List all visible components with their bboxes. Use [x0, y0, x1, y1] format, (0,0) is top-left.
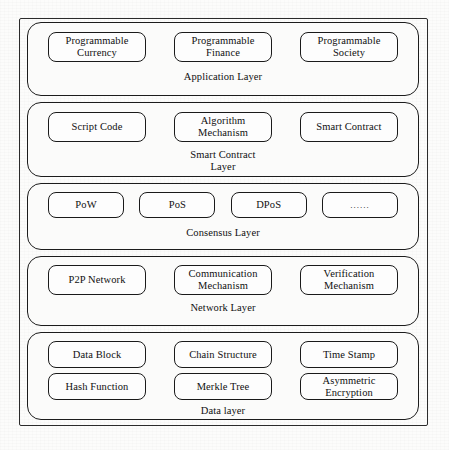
node-label: Programmable Society: [301, 35, 397, 59]
node-programmable-finance[interactable]: Programmable Finance: [174, 32, 272, 62]
layer-network[interactable]: P2P Network Communication Mechanism Veri…: [27, 256, 419, 326]
node-script-code[interactable]: Script Code: [48, 112, 146, 142]
node-label: Algorithm Mechanism: [175, 115, 271, 139]
layer-application-title: Application Layer: [28, 71, 418, 83]
node-label: Script Code: [69, 121, 126, 133]
node-merkle-tree[interactable]: Merkle Tree: [174, 373, 272, 400]
layer-smart-contract-item-row: Script Code Algorithm Mechanism Smart Co…: [28, 112, 418, 142]
node-smart-contract[interactable]: Smart Contract: [300, 112, 398, 142]
node-programmable-currency[interactable]: Programmable Currency: [48, 32, 146, 62]
node-label: Time Stamp: [320, 349, 378, 361]
node-communication-mechanism[interactable]: Communication Mechanism: [174, 265, 272, 295]
node-label: PoS: [166, 199, 189, 211]
layer-smart-contract-title-line2: Layer: [211, 161, 236, 172]
layer-smart-contract-title: Smart Contract Layer: [28, 149, 418, 173]
node-label: Verification Mechanism: [301, 268, 397, 292]
layer-network-title: Network Layer: [28, 302, 418, 314]
node-p2p-network[interactable]: P2P Network: [48, 265, 146, 295]
layer-data-item-row-1: Data Block Chain Structure Time Stamp: [28, 341, 418, 368]
node-label: Chain Structure: [186, 349, 260, 361]
node-label: Hash Function: [63, 381, 132, 393]
node-label: Programmable Finance: [175, 35, 271, 59]
layer-consensus-title: Consensus Layer: [28, 227, 418, 239]
node-data-block[interactable]: Data Block: [48, 341, 146, 368]
node-label: Asymmetric Encryption: [301, 375, 397, 399]
node-dpos[interactable]: DPoS: [231, 192, 307, 218]
node-time-stamp[interactable]: Time Stamp: [300, 341, 398, 368]
layer-data-title: Data layer: [28, 405, 418, 417]
layer-data[interactable]: Data Block Chain Structure Time Stamp Ha…: [27, 332, 419, 420]
node-label: P2P Network: [65, 274, 128, 286]
node-label: Data Block: [70, 349, 125, 361]
node-hash-function[interactable]: Hash Function: [48, 373, 146, 400]
layer-application-item-row: Programmable Currency Programmable Finan…: [28, 32, 418, 62]
node-asymmetric-encryption[interactable]: Asymmetric Encryption: [300, 373, 398, 400]
layer-smart-contract-title-line1: Smart Contract: [190, 149, 255, 160]
node-chain-structure[interactable]: Chain Structure: [174, 341, 272, 368]
node-consensus-ellipsis[interactable]: ......: [322, 192, 398, 218]
node-label: DPoS: [253, 199, 284, 211]
node-algorithm-mechanism[interactable]: Algorithm Mechanism: [174, 112, 272, 142]
layer-data-item-row-2: Hash Function Merkle Tree Asymmetric Enc…: [28, 373, 418, 400]
layer-application[interactable]: Programmable Currency Programmable Finan…: [27, 22, 419, 96]
node-verification-mechanism[interactable]: Verification Mechanism: [300, 265, 398, 295]
ellipsis-icon: ......: [347, 199, 373, 211]
node-pos[interactable]: PoS: [139, 192, 215, 218]
blockchain-architecture-diagram: Programmable Currency Programmable Finan…: [0, 0, 449, 450]
layer-consensus-item-row: PoW PoS DPoS ......: [28, 192, 418, 218]
node-programmable-society[interactable]: Programmable Society: [300, 32, 398, 62]
layer-consensus[interactable]: PoW PoS DPoS ...... Consensus Layer: [27, 183, 419, 250]
layer-network-item-row: P2P Network Communication Mechanism Veri…: [28, 265, 418, 295]
node-pow[interactable]: PoW: [48, 192, 124, 218]
node-label: Programmable Currency: [49, 35, 145, 59]
layer-smart-contract[interactable]: Script Code Algorithm Mechanism Smart Co…: [27, 102, 419, 177]
node-label: Communication Mechanism: [175, 268, 271, 292]
node-label: Smart Contract: [313, 121, 384, 133]
node-label: Merkle Tree: [194, 381, 253, 393]
node-label: PoW: [72, 199, 99, 211]
